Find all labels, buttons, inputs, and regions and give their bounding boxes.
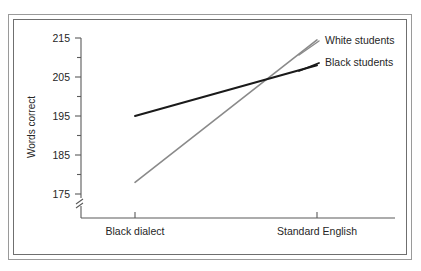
y-tick-label-175: 175 [52,188,70,200]
line-chart: 215 205 195 185 175 Words correct Black … [13,19,407,255]
legend-label-white-students: White students [325,34,394,46]
y-tick-label-185: 185 [52,149,70,161]
x-tick-label-standard-english: Standard English [277,225,357,237]
legend-label-black-students: Black students [325,56,393,68]
y-tick-label-205: 205 [52,71,70,83]
legend-leader-white-students [299,41,319,55]
series-line-white-students [135,40,317,182]
x-tick-label-black-dialect: Black dialect [106,225,165,237]
y-axis-break-icon [76,199,83,208]
y-tick-label-215: 215 [52,32,70,44]
screenshot-root: 215 205 195 185 175 Words correct Black … [0,0,421,271]
y-axis-title: Words correct [26,96,37,158]
series-line-black-students [135,65,317,116]
y-tick-label-195: 195 [52,110,70,122]
legend-leader-black-students [299,63,319,71]
